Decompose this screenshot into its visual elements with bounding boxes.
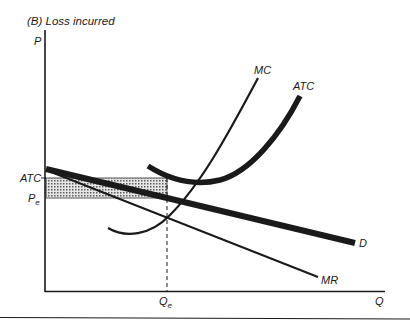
- diagram-title: (B) Loss incurred: [27, 15, 115, 27]
- atc-curve-label: ATC: [292, 80, 314, 92]
- qe-label: Qe: [159, 295, 173, 310]
- loss-diagram: (B) Loss incurred P Q ATC Pe Qe MC ATC D…: [0, 0, 410, 329]
- d-label: D: [359, 237, 367, 249]
- bottom-rule: [0, 318, 410, 320]
- mc-label: MC: [254, 64, 271, 76]
- x-axis-label: Q: [375, 295, 384, 307]
- mr-label: MR: [321, 274, 338, 286]
- mc-curve: [108, 78, 258, 234]
- atc-level-label: ATC: [19, 172, 41, 184]
- pe-label: Pe: [28, 192, 40, 207]
- y-axis-label: P: [34, 35, 42, 47]
